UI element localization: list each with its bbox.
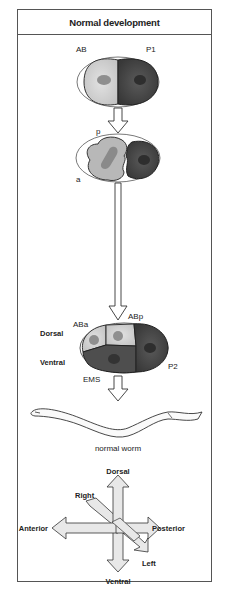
arrow-down-icon [108, 108, 128, 133]
axis-label-dorsal: Dorsal [106, 467, 129, 476]
four-cell-embryo: ABa ABp Dorsal Ventral EMS P2 [40, 312, 178, 384]
development-diagram: AB P1 p a ABa ABp Dorsal Ventral EMS P2 [0, 0, 230, 595]
long-arrow-down-icon [109, 183, 127, 320]
label-p2: P2 [168, 362, 178, 371]
body-axes-compass: Dorsal Ventral Anterior Posterior Right … [19, 467, 185, 586]
label-p1: P1 [146, 45, 156, 54]
worm-illustration: normal worm [31, 409, 202, 453]
worm-caption: normal worm [95, 444, 142, 453]
label-p: p [96, 127, 101, 136]
p1-nucleus-icon [138, 155, 150, 165]
p1-nucleus-icon [134, 75, 146, 85]
arrow-down-icon [108, 376, 128, 401]
axis-label-anterior: Anterior [19, 524, 48, 533]
axis-label-posterior: Posterior [152, 524, 185, 533]
axis-label-left: Left [142, 559, 156, 568]
label-dorsal: Dorsal [40, 329, 63, 338]
two-cell-embryo: AB P1 [76, 45, 159, 107]
label-ems: EMS [83, 375, 100, 384]
label-aba: ABa [73, 320, 89, 329]
dividing-embryo: p a [76, 127, 160, 184]
axis-label-right: Right [75, 491, 95, 500]
label-a: a [76, 175, 81, 184]
label-ab: AB [76, 45, 87, 54]
ems-nucleus-icon [108, 354, 120, 364]
abp-nucleus-icon [113, 331, 123, 341]
axis-label-ventral: Ventral [105, 577, 130, 586]
label-ventral: Ventral [40, 358, 65, 367]
p2-nucleus-icon [144, 343, 156, 353]
aba-nucleus-icon [89, 335, 99, 345]
ab-nucleus-icon [97, 75, 111, 85]
label-abp: ABp [128, 312, 144, 321]
worm-icon [31, 409, 202, 437]
